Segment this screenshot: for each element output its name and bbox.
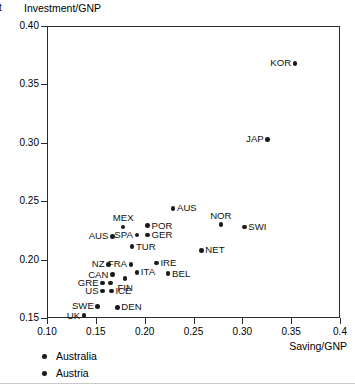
data-point [106,262,111,267]
data-point [108,281,113,286]
data-point [110,234,115,239]
data-point [145,223,150,228]
data-point [154,261,159,266]
data-point [219,222,224,227]
x-tick-mark [291,318,292,324]
clipped-edge-glyph: t [0,2,2,14]
data-point-label: AUS [89,231,109,241]
x-tick-label: 0.4 [318,326,355,337]
y-tick-label: 0.25 [0,196,39,206]
data-point [115,305,120,310]
data-point-label: ITA [141,267,155,277]
x-tick-mark [96,318,97,324]
x-tick-label: 0.20 [123,326,167,337]
data-point-label: NZ [92,259,105,269]
y-axis-title: Investment/GNP [24,2,101,14]
y-tick-label: 0.35 [0,79,39,89]
y-tick-label: 0.40 [0,21,39,31]
x-tick-label: 0.15 [74,326,118,337]
data-point [242,225,247,230]
y-tick-mark [41,143,47,144]
data-point-label: NOR [210,211,231,221]
legend-label: Australia [56,348,97,364]
y-tick-mark [41,260,47,261]
data-point-label: BEL [172,269,190,279]
data-point-label: JAP [246,134,264,144]
y-tick-label: 0.30 [0,138,39,148]
data-point-label: TUR [136,242,156,252]
x-tick-mark [242,318,243,324]
x-tick-label: 0.30 [220,326,264,337]
y-tick-label: 0.20 [0,255,39,265]
scatter-plot-figure: t Investment/GNP 0.150.200.250.300.350.4… [0,0,355,387]
data-point-label: GER [152,230,173,240]
x-tick-mark [194,318,195,324]
x-tick-mark [145,318,146,324]
y-tick-mark [41,26,47,27]
data-point-label: IRE [160,258,176,268]
x-tick-label: 0.25 [172,326,216,337]
legend-label: Austria [56,365,89,381]
x-axis-title: Saving/GNP [0,340,347,352]
data-point [135,270,140,275]
data-point [100,281,105,286]
data-point-label: SWI [248,222,266,232]
legend-marker-icon [42,371,47,376]
y-tick-label: 0.15 [0,313,39,323]
data-point [110,272,115,277]
data-point [171,206,176,211]
bottom-divider [0,383,355,384]
data-point-label: KOR [270,58,291,68]
data-point-label: UK [67,311,80,321]
data-point [265,137,270,142]
data-point-label: ICE [115,286,131,296]
data-point-label: MEX [113,213,134,223]
data-point [129,262,134,267]
data-point [123,276,128,281]
data-point-label: NET [205,245,224,255]
y-tick-mark [41,201,47,202]
x-tick-mark [340,318,341,324]
data-point-label: AUS [177,203,197,213]
x-tick-label: 0.35 [269,326,313,337]
y-tick-mark [41,84,47,85]
data-point-label: DEN [121,302,141,312]
data-point [293,61,298,66]
x-tick-label: 0.10 [25,326,69,337]
data-point [95,304,100,309]
legend-marker-icon [42,354,47,359]
data-point [199,248,204,253]
data-point-label: US [85,286,98,296]
x-tick-mark [47,318,48,324]
data-point-label: SPA [114,230,132,240]
